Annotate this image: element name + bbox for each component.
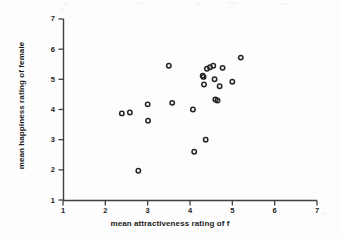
data-point: [128, 110, 132, 114]
scatter-plot-figure: mean happiness rating of female mean att…: [0, 0, 340, 238]
data-point: [170, 101, 174, 105]
data-point: [212, 77, 216, 81]
data-point: [203, 137, 207, 141]
data-point: [211, 64, 215, 68]
data-point: [136, 169, 140, 173]
axis-lines: [63, 19, 317, 201]
data-point: [202, 82, 206, 86]
data-point: [239, 55, 243, 59]
data-point: [191, 107, 195, 111]
data-point: [145, 102, 149, 106]
y-tick-marks: [59, 19, 64, 200]
data-point: [120, 111, 124, 115]
data-point: [167, 64, 171, 68]
plot-area: [0, 0, 340, 238]
data-point: [230, 80, 234, 84]
data-point: [192, 150, 196, 154]
x-tick-marks: [63, 201, 317, 206]
data-point-group: [120, 55, 243, 173]
data-point: [146, 118, 150, 122]
data-point: [220, 66, 224, 70]
data-point: [217, 84, 221, 88]
